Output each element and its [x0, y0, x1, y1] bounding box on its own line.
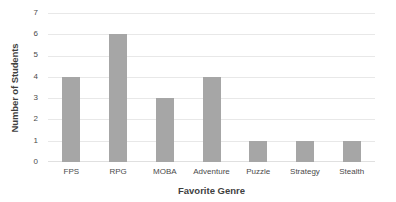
bar[interactable]: [343, 141, 361, 162]
plot-area: [48, 13, 375, 162]
bar[interactable]: [62, 77, 80, 162]
x-tick-label: RPG: [95, 167, 142, 177]
bar-slot: [282, 13, 329, 162]
bar-series: [48, 13, 375, 162]
bar-slot: [328, 13, 375, 162]
bar[interactable]: [249, 141, 267, 162]
x-axis-title: Favorite Genre: [48, 185, 375, 196]
x-tick-label: Stealth: [328, 167, 375, 177]
bar-slot: [188, 13, 235, 162]
x-tick-label: MOBA: [141, 167, 188, 177]
x-tick-label: Strategy: [282, 167, 329, 177]
bar[interactable]: [203, 77, 221, 162]
bar-slot: [235, 13, 282, 162]
x-axis-tick-labels: FPSRPGMOBAAdventurePuzzleStrategyStealth: [48, 167, 375, 177]
bar[interactable]: [296, 141, 314, 162]
bar-chart: Number of Students 7 6 5 4 3 2 1 0 FPSRP…: [0, 0, 396, 202]
bar[interactable]: [109, 34, 127, 162]
x-tick-label: Adventure: [188, 167, 235, 177]
bar-slot: [141, 13, 188, 162]
bar-slot: [95, 13, 142, 162]
x-tick-label: Puzzle: [235, 167, 282, 177]
y-axis-title: Number of Students: [7, 13, 23, 163]
x-tick-label: FPS: [48, 167, 95, 177]
bar[interactable]: [156, 98, 174, 162]
bar-slot: [48, 13, 95, 162]
